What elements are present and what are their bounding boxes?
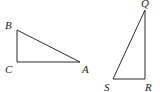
vertex-label-s: S <box>104 81 110 92</box>
vertex-label-r: R <box>144 81 152 92</box>
vertex-label-c: C <box>5 63 13 75</box>
vertex-label-b: B <box>5 19 12 31</box>
geometry-diagram: A B C Q R S <box>0 0 160 92</box>
triangle-abc <box>17 30 80 62</box>
vertex-label-a: A <box>81 63 89 75</box>
vertex-label-q: Q <box>141 0 149 9</box>
triangle-qrs <box>113 10 145 79</box>
